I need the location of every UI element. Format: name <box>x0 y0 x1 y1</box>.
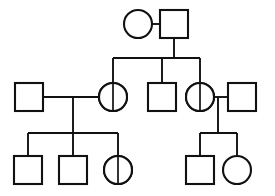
square-symbol <box>59 156 87 184</box>
pedigree-chart <box>0 0 275 196</box>
square-symbol <box>228 83 256 111</box>
square-symbol <box>186 156 214 184</box>
pedigree-canvas <box>0 0 275 196</box>
individual-II-3-male-unaffected[interactable] <box>148 83 176 111</box>
individual-III-2-male-unaffected[interactable] <box>59 156 87 184</box>
square-symbol <box>15 83 43 111</box>
individual-I-2-male-affected[interactable] <box>160 10 188 38</box>
individual-III-1-male-affected[interactable] <box>14 156 42 184</box>
individual-III-3-female-carrier[interactable] <box>104 156 132 184</box>
individual-II-2-female-carrier[interactable] <box>99 83 127 111</box>
individual-I-1-female-unaffected[interactable] <box>124 10 152 38</box>
generation-I <box>124 10 188 58</box>
generation-III <box>14 133 251 184</box>
individual-II-4-female-carrier[interactable] <box>186 83 214 111</box>
square-symbol <box>148 83 176 111</box>
individual-II-5-male-unaffected[interactable] <box>228 83 256 111</box>
square-symbol <box>160 10 188 38</box>
circle-symbol <box>124 10 152 38</box>
individual-III-5-female-unaffected[interactable] <box>223 156 251 184</box>
generation-II <box>15 58 256 133</box>
individual-III-4-male-affected[interactable] <box>186 156 214 184</box>
square-symbol <box>14 156 42 184</box>
individual-II-1-male-unaffected[interactable] <box>15 83 43 111</box>
circle-symbol <box>223 156 251 184</box>
